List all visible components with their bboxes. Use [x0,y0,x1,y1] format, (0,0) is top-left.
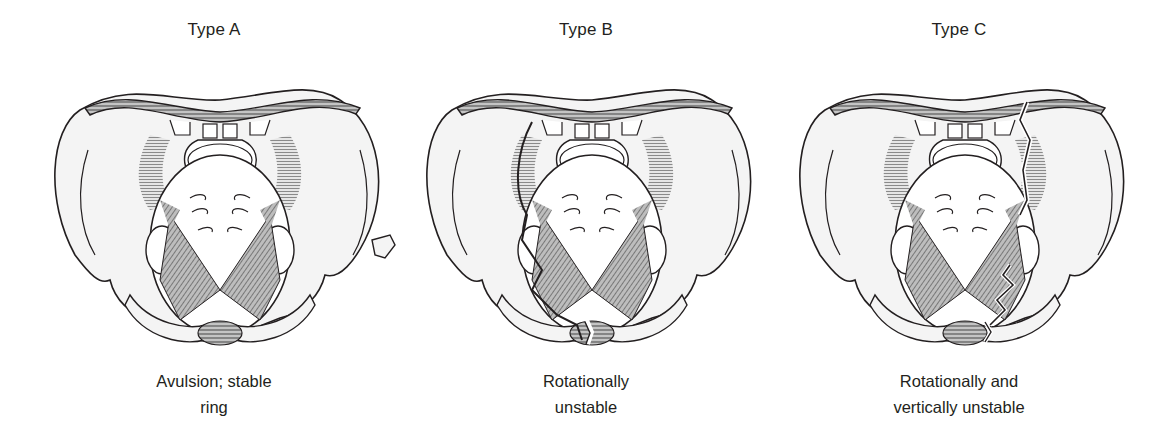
pelvis-type-b-illustration [392,40,780,350]
panel-caption: Rotationally unstable [392,368,780,420]
panel-type-b: Type B Rotationally unstable [392,0,780,445]
panel-title: Type B [392,20,780,40]
pelvis-type-a-illustration [20,40,408,350]
caption-line: Rotationally and [765,368,1153,394]
caption-line: unstable [392,394,780,420]
caption-line: Rotationally [392,368,780,394]
caption-line: Avulsion; stable [20,368,408,394]
panel-title: Type C [765,20,1153,40]
panel-caption: Rotationally and vertically unstable [765,368,1153,420]
caption-line: vertically unstable [765,394,1153,420]
panel-type-a: Type A Avulsion; stable ring [20,0,408,445]
pelvis-type-c-illustration [765,40,1153,350]
panel-type-c: Type C Rotationally and vertically unsta… [765,0,1153,445]
caption-line: ring [20,394,408,420]
panel-caption: Avulsion; stable ring [20,368,408,420]
panel-title: Type A [20,20,408,40]
